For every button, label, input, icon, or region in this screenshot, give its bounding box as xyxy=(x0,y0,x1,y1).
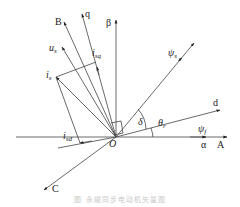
is-vector xyxy=(56,77,116,137)
label-us: us xyxy=(49,42,57,55)
theta-r-arc xyxy=(151,128,153,137)
label-delta: δ xyxy=(138,116,143,127)
label-c: C xyxy=(52,183,59,194)
is-isd-projection xyxy=(56,77,80,143)
figure-caption: 图 永磁同步电动机矢量图 xyxy=(0,194,240,204)
is-isq-projection xyxy=(56,62,96,77)
psi-s-tick xyxy=(178,58,182,61)
label-psi-s: ψs xyxy=(168,47,177,60)
right-angle-mark xyxy=(111,121,123,135)
psi-s-vector xyxy=(116,43,194,137)
label-isq: isq xyxy=(92,47,102,60)
label-is: is xyxy=(46,69,52,82)
us-vector xyxy=(62,47,116,137)
label-q: q xyxy=(85,8,90,19)
label-isd: isd xyxy=(63,130,73,143)
label-a: A xyxy=(217,139,225,150)
label-alpha: α xyxy=(201,139,207,150)
vector-diagram: B q β us isq is isd ψs d δ θr ψf α A O C xyxy=(0,0,240,207)
q-axis xyxy=(82,14,116,137)
isq-vector xyxy=(97,67,99,75)
label-psi-f: ψf xyxy=(198,123,207,136)
label-theta-r: θr xyxy=(158,117,166,130)
label-origin: O xyxy=(109,138,116,149)
label-beta: β xyxy=(106,17,111,28)
label-b: B xyxy=(55,16,62,27)
label-d: d xyxy=(213,97,218,108)
